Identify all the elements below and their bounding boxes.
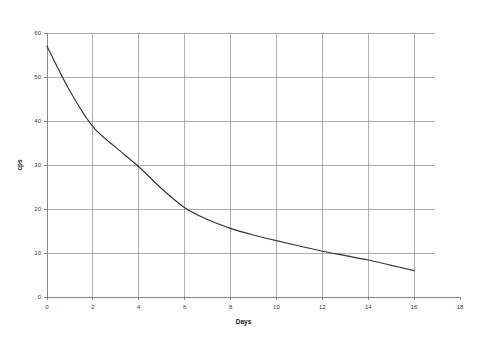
x-tick-label-14: 14 — [365, 304, 372, 310]
y-tick-label-60: 60 — [34, 30, 41, 36]
y-tick-label-10: 10 — [34, 250, 41, 256]
y-tick-label-20: 20 — [34, 206, 41, 212]
x-tick-label-18: 18 — [457, 304, 464, 310]
y-axis-title: cps — [16, 159, 24, 171]
line-chart: 0102030405060024681012141618Dayscps — [0, 0, 488, 337]
y-tick-label-0: 0 — [38, 294, 42, 300]
y-tick-label-30: 30 — [34, 162, 41, 168]
x-axis-title: Days — [236, 318, 252, 326]
y-tick-label-50: 50 — [34, 74, 41, 80]
x-tick-label-10: 10 — [273, 304, 280, 310]
x-tick-label-6: 6 — [183, 304, 187, 310]
y-tick-label-40: 40 — [34, 118, 41, 124]
x-tick-label-4: 4 — [137, 304, 141, 310]
chart-container: 0102030405060024681012141618Dayscps — [0, 0, 488, 337]
x-tick-label-0: 0 — [45, 304, 49, 310]
x-tick-label-8: 8 — [229, 304, 233, 310]
x-tick-label-16: 16 — [411, 304, 418, 310]
x-tick-label-2: 2 — [91, 304, 95, 310]
x-tick-label-12: 12 — [319, 304, 326, 310]
